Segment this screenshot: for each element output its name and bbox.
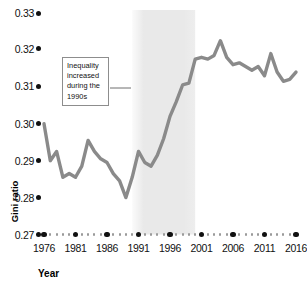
x-tick-label-2006: 2006 bbox=[216, 243, 250, 254]
x-minor-tick-dot bbox=[245, 233, 247, 235]
x-minor-tick-dot bbox=[62, 233, 64, 235]
x-minor-tick-dot bbox=[194, 233, 196, 235]
shaded-region-1990s bbox=[132, 10, 195, 235]
y-tick-dot bbox=[36, 232, 41, 237]
annotation-line-4: 1990s bbox=[67, 92, 105, 102]
x-tick-label-1986: 1986 bbox=[90, 243, 124, 254]
x-minor-tick-dot bbox=[251, 233, 253, 235]
x-minor-tick-dot bbox=[125, 233, 127, 235]
y-tick-dot bbox=[36, 121, 41, 126]
x-major-tick-dot-2006 bbox=[230, 232, 236, 238]
x-tick-label-2016: 2016 bbox=[279, 243, 307, 254]
x-tick-label-1996: 1996 bbox=[153, 243, 187, 254]
y-tick-label-0-31: 0.31 bbox=[0, 81, 34, 92]
annotation-line-3: during the bbox=[67, 81, 105, 91]
x-minor-tick-dot bbox=[257, 233, 259, 235]
annotation-line-1: Inequality bbox=[67, 61, 105, 71]
x-minor-tick-dot bbox=[182, 233, 184, 235]
x-minor-tick-dot bbox=[207, 233, 209, 235]
annotation-line-2: increased bbox=[67, 71, 105, 81]
x-major-tick-dot-1976 bbox=[41, 232, 47, 238]
x-minor-tick-dot bbox=[226, 233, 228, 235]
y-tick-label-0-33: 0.33 bbox=[0, 8, 34, 19]
annotation-callout: Inequality increased during the 1990s bbox=[62, 57, 109, 106]
x-minor-tick-dot bbox=[213, 233, 215, 235]
y-tick-label-0-29: 0.29 bbox=[0, 156, 34, 167]
x-minor-tick-dot bbox=[119, 233, 121, 235]
y-tick-dot bbox=[36, 46, 41, 51]
y-tick-dot bbox=[36, 11, 41, 16]
x-tick-label-1981: 1981 bbox=[59, 243, 93, 254]
y-axis-title: Gini ratio bbox=[9, 172, 20, 232]
x-minor-tick-dot bbox=[150, 233, 152, 235]
x-minor-tick-dot bbox=[270, 233, 272, 235]
y-tick-dot bbox=[36, 158, 41, 163]
x-minor-tick-dot bbox=[100, 233, 102, 235]
x-major-tick-dot-1986 bbox=[104, 232, 110, 238]
x-major-tick-dot-1996 bbox=[167, 232, 173, 238]
x-axis-title: Year bbox=[38, 268, 59, 279]
y-tick-dot bbox=[36, 195, 41, 200]
x-tick-label-1991: 1991 bbox=[122, 243, 156, 254]
x-minor-tick-dot bbox=[87, 233, 89, 235]
x-minor-tick-dot bbox=[289, 233, 291, 235]
x-minor-tick-dot bbox=[81, 233, 83, 235]
x-minor-tick-dot bbox=[56, 233, 58, 235]
x-minor-tick-dot bbox=[276, 233, 278, 235]
x-major-tick-dot-2016 bbox=[293, 232, 299, 238]
x-tick-label-2001: 2001 bbox=[185, 243, 219, 254]
x-minor-tick-dot bbox=[144, 233, 146, 235]
x-minor-tick-dot bbox=[163, 233, 165, 235]
x-tick-label-1976: 1976 bbox=[27, 243, 61, 254]
x-tick-label-2011: 2011 bbox=[248, 243, 282, 254]
y-tick-dot bbox=[36, 84, 41, 89]
y-tick-label-0-32: 0.32 bbox=[0, 44, 34, 55]
x-minor-tick-dot bbox=[68, 233, 70, 235]
x-minor-tick-dot bbox=[131, 233, 133, 235]
gini-ratio-line-chart: 0.330.320.310.300.290.280.27 19761981198… bbox=[0, 0, 307, 298]
x-minor-tick-dot bbox=[188, 233, 190, 235]
y-tick-label-0-30: 0.30 bbox=[0, 119, 34, 130]
